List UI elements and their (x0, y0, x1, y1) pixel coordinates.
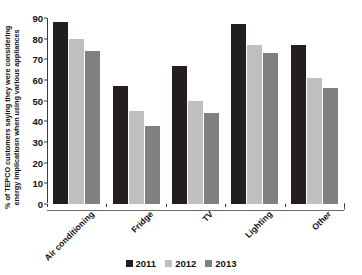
y-axis-tick-mark (44, 18, 47, 19)
y-axis-tick-label: 80 (32, 33, 43, 44)
bar-face (231, 26, 246, 204)
x-axis-label: Fridge (130, 209, 156, 235)
bar-face (188, 103, 203, 204)
y-axis-tick-label: 0 (38, 199, 43, 210)
bar-cap (85, 51, 100, 53)
bar-2013-fridge (145, 128, 160, 204)
y-axis-tick-label: 30 (32, 137, 43, 148)
y-axis-tick-label: 50 (32, 95, 43, 106)
y-axis-line (47, 18, 48, 204)
bar-2013-lighting (263, 55, 278, 204)
chart-legend: 201120122013 (0, 258, 362, 269)
y-axis-tick-mark (44, 59, 47, 60)
y-axis-tick-label: 40 (32, 116, 43, 127)
x-axis-tick-mark (47, 204, 48, 207)
y-axis-tick-mark (44, 100, 47, 101)
bar-2012-other (307, 80, 322, 204)
x-axis-tick-mark (166, 204, 167, 207)
bar-cap (113, 86, 128, 88)
y-axis-tick-label: 70 (32, 54, 43, 65)
bar-group (113, 18, 160, 204)
bar-face (323, 90, 338, 204)
bar-2013-other (323, 90, 338, 204)
y-axis-tick-mark (44, 183, 47, 184)
bar-cap (307, 78, 322, 80)
bar-face (263, 55, 278, 204)
legend-item-2012: 2012 (165, 258, 196, 269)
bar-cap (204, 113, 219, 115)
bar-group (291, 18, 338, 204)
x-axis-label: Lighting (243, 209, 274, 240)
bar-face (247, 47, 262, 204)
legend-item-2011: 2011 (126, 258, 157, 269)
y-axis-tick-label: 10 (32, 178, 43, 189)
legend-label: 2012 (175, 258, 196, 269)
bar-cap (231, 24, 246, 26)
baseline-slab (47, 203, 344, 211)
bar-2011-lighting (231, 26, 246, 204)
y-axis-tick-label: 90 (32, 13, 43, 24)
bar-cap (53, 22, 68, 24)
y-axis-title-line-2: energy implicatiosn when using various a… (13, 26, 22, 209)
bar-face (85, 53, 100, 204)
x-axis-label: TV (200, 209, 215, 224)
x-axis-tick-mark (285, 204, 286, 207)
y-axis-tick-mark (44, 38, 47, 39)
plot-area: 0102030405060708090 (47, 18, 344, 204)
bar-face (291, 47, 306, 204)
bar-face (129, 113, 144, 204)
bar-face (204, 115, 219, 204)
bar-2011-air-conditioning (53, 24, 68, 204)
x-axis-tick-mark (225, 204, 226, 207)
y-axis-tick-mark (44, 162, 47, 163)
bar-chart: % of TEPCO customers saying they were co… (0, 0, 362, 275)
bar-cap (323, 88, 338, 90)
x-axis-label: Other (310, 209, 333, 232)
legend-swatch-icon (126, 260, 133, 267)
bar-2012-tv (188, 103, 203, 204)
bar-face (69, 41, 84, 204)
bar-cap (145, 126, 160, 128)
bar-cap (172, 66, 187, 68)
bar-2012-air-conditioning (69, 41, 84, 204)
y-axis-tick-mark (44, 142, 47, 143)
x-axis-tick-mark (344, 204, 345, 207)
legend-swatch-icon (205, 260, 212, 267)
bar-2013-air-conditioning (85, 53, 100, 204)
bar-2013-tv (204, 115, 219, 204)
legend-item-2013: 2013 (205, 258, 236, 269)
x-axis-label: Air conditioning (42, 209, 96, 263)
bar-face (113, 88, 128, 204)
bar-cap (247, 45, 262, 47)
bar-group (53, 18, 100, 204)
y-axis-tick-mark (44, 80, 47, 81)
bar-cap (129, 111, 144, 113)
bar-face (172, 68, 187, 204)
y-axis-tick-label: 20 (32, 157, 43, 168)
y-axis-title: % of TEPCO customers saying they were co… (0, 0, 26, 235)
y-axis-tick-label: 60 (32, 75, 43, 86)
legend-label: 2013 (215, 258, 236, 269)
y-axis-tick-mark (44, 121, 47, 122)
bar-cap (69, 39, 84, 41)
bar-2011-tv (172, 68, 187, 204)
bar-face (53, 24, 68, 204)
x-axis-tick-mark (106, 204, 107, 207)
y-axis-title-line-1: % of TEPCO customers saying they were co… (4, 26, 13, 209)
bar-cap (263, 53, 278, 55)
bar-face (145, 128, 160, 204)
bar-cap (188, 101, 203, 103)
bar-cap (291, 45, 306, 47)
legend-label: 2011 (136, 258, 157, 269)
bar-2012-fridge (129, 113, 144, 204)
bar-group (231, 18, 278, 204)
legend-swatch-icon (165, 260, 172, 267)
bar-2012-lighting (247, 47, 262, 204)
bar-2011-other (291, 47, 306, 204)
bar-face (307, 80, 322, 204)
bar-2011-fridge (113, 88, 128, 204)
bar-group (172, 18, 219, 204)
